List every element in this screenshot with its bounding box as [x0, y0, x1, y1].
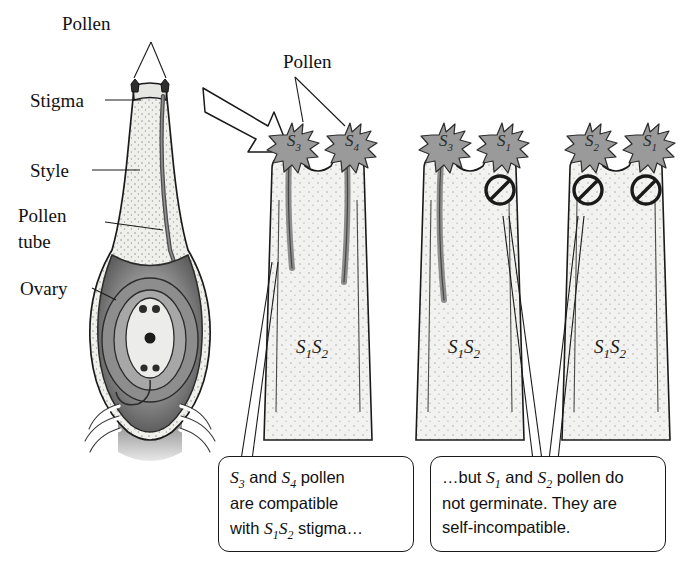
pistil-pollen-grain-right [161, 79, 169, 92]
label-pollen-tube: Pollen [18, 205, 67, 226]
leader-pollen-left [134, 42, 151, 78]
ovule-antipodal-2 [152, 364, 159, 371]
magnified-stigma-1: S3 S4 S1S2 [241, 123, 377, 460]
caption-right-line-1: …but S1 and S2 pollen do [442, 465, 654, 492]
caption-right-line-3: self-incompatible. [442, 516, 654, 539]
caption-right: …but S1 and S2 pollen do not germinate. … [430, 456, 666, 552]
ovule-antipodal-1 [140, 364, 147, 371]
ovule-nucleus [145, 333, 156, 344]
label-pollen-magnified: Pollen [283, 51, 332, 72]
caption-left-line-1: S3 and S4 pollen [230, 465, 402, 492]
stigma-3-body [562, 154, 670, 440]
leader-pollen-right [151, 42, 166, 78]
label-ovary: Ovary [20, 278, 68, 299]
label-pollen-tube-2: tube [18, 231, 51, 252]
pistil-pollen-grain-left [131, 79, 139, 92]
caption-left: S3 and S4 pollen are compatible with S1S… [218, 456, 414, 552]
magnified-stigma-3: S2 S1 S1S2 [549, 123, 675, 460]
stigma-2-body [416, 154, 524, 440]
magnified-stigma-2: S3 S1 S1S2 [416, 123, 542, 460]
pistil-illustration [85, 42, 215, 461]
label-style: Style [30, 160, 69, 181]
ovule-synergid-2 [152, 305, 160, 313]
stigma-1-body [264, 154, 372, 440]
figure-canvas: Pollen Stigma Style Pollen tube Ovary [0, 0, 695, 565]
label-stigma: Stigma [30, 90, 84, 111]
ovule-synergid-1 [139, 305, 147, 313]
caption-right-line-2: not germinate. They are [442, 492, 654, 515]
caption-left-line-3: with S1S2 stigma… [230, 516, 402, 543]
caption-left-line-2: are compatible [230, 492, 402, 515]
label-pollen: Pollen [62, 13, 111, 34]
